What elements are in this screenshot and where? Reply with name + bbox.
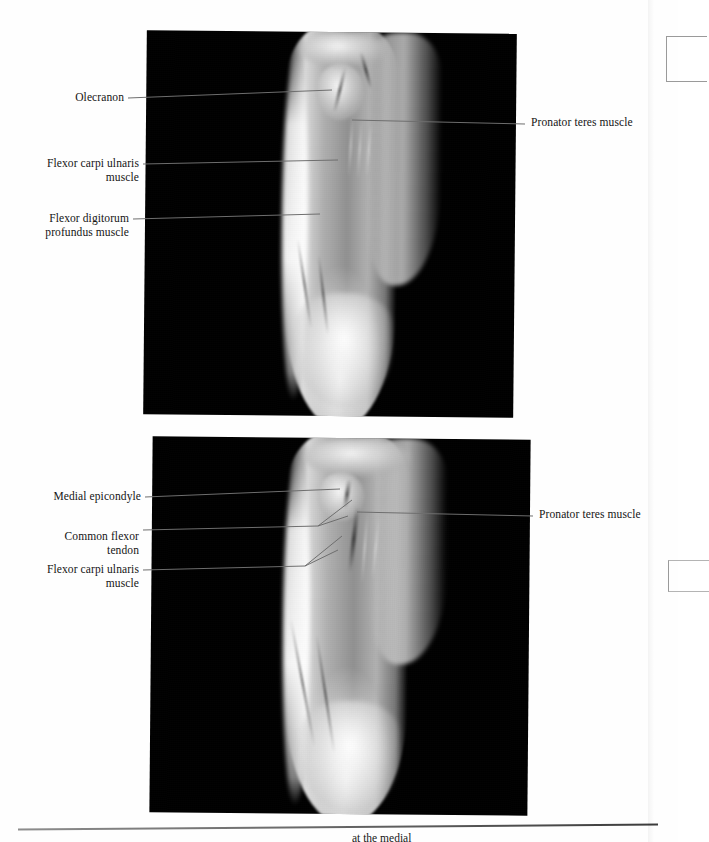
label-flexor-carpi-ulnaris-muscle-2: Flexor carpi ulnaris muscle xyxy=(0,563,139,590)
pronator-teres-region xyxy=(366,32,442,286)
upper-mri-panel xyxy=(143,30,517,418)
footer-rule xyxy=(18,823,658,830)
lower-mri-panel xyxy=(149,436,530,815)
label-flexor-carpi-ulnaris-muscle: Flexor carpi ulnaris muscle xyxy=(0,157,139,184)
page-edge-artifact-middle xyxy=(668,560,709,592)
distal-humerus-region xyxy=(304,438,410,477)
label-common-flexor-tendon: Common flexor tendon xyxy=(0,530,139,557)
upper-mri-image xyxy=(143,30,517,418)
label-medial-epicondyle: Medial epicondyle xyxy=(0,490,141,504)
label-pronator-teres-muscle: Pronator teres muscle xyxy=(531,116,691,130)
page-edge-artifact-top xyxy=(666,36,707,82)
label-flexor-digitorum-profundus-muscle: Flexor digitorum profundus muscle xyxy=(0,212,129,239)
figure-caption-fragment: at the medial xyxy=(352,832,672,842)
distal-humerus-region xyxy=(298,32,387,67)
lower-mri-image xyxy=(149,436,530,815)
label-pronator-teres-muscle-2: Pronator teres muscle xyxy=(539,508,699,522)
label-olecranon: Olecranon xyxy=(0,91,124,105)
